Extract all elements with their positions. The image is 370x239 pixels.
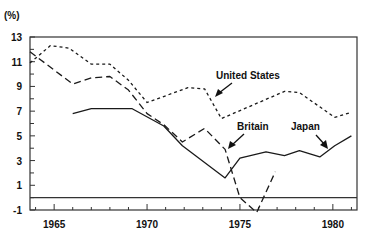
arrow-icon-japan bbox=[316, 135, 328, 149]
annotation-britain: Britain bbox=[237, 121, 269, 132]
y-tick-label: 3 bbox=[16, 156, 22, 167]
line-chart: (%) -1135791113 1965197019751980 United … bbox=[0, 0, 370, 239]
x-tick-label: 1980 bbox=[322, 219, 345, 230]
series-line-japan bbox=[73, 109, 352, 178]
x-tick-label: 1965 bbox=[43, 219, 66, 230]
y-tick-label: 1 bbox=[16, 180, 22, 191]
y-axis: -1135791113 bbox=[11, 32, 35, 216]
y-tick-label: 7 bbox=[16, 106, 22, 117]
x-tick-label: 1975 bbox=[229, 219, 252, 230]
arrow-icon-britain bbox=[228, 134, 244, 149]
y-tick-label: -1 bbox=[13, 205, 22, 216]
y-tick-label: 5 bbox=[16, 131, 22, 142]
y-axis-unit: (%) bbox=[4, 10, 20, 21]
annotation-united-states: United States bbox=[216, 70, 280, 81]
y-tick-label: 11 bbox=[11, 57, 22, 68]
annotation-japan: Japan bbox=[291, 121, 320, 132]
chart-canvas: (%) -1135791113 1965197019751980 United … bbox=[0, 0, 370, 239]
y-tick-label: 9 bbox=[16, 81, 22, 92]
arrow-icon-united-states bbox=[215, 83, 232, 97]
x-tick-label: 1970 bbox=[136, 219, 159, 230]
y-tick-label: 13 bbox=[11, 32, 23, 43]
x-axis: 1965197019751980 bbox=[36, 204, 352, 230]
